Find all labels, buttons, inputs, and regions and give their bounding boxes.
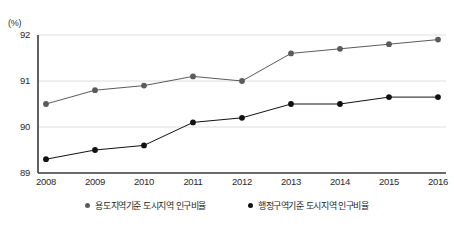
chart-figure: (%) 89909192 200820092010201120122013201… xyxy=(0,0,454,228)
x-axis-tick-2014: 2014 xyxy=(323,176,357,187)
line-chart-plot xyxy=(0,0,454,228)
legend-item-label: 행정구역기준 도시지역 인구비율 xyxy=(258,199,369,212)
legend-dot-icon xyxy=(248,203,253,208)
y-axis-tick-92: 92 xyxy=(8,29,30,40)
x-axis-tick-2009: 2009 xyxy=(78,176,112,187)
x-axis-tick-2010: 2010 xyxy=(127,176,161,187)
legend-dot-icon xyxy=(85,203,90,208)
y-axis-tick-91: 91 xyxy=(8,75,30,86)
legend-item-label: 용도지역기준 도시지역 인구비율 xyxy=(95,199,206,212)
y-axis-tick-89: 89 xyxy=(8,167,30,178)
x-axis-tick-2016: 2016 xyxy=(421,176,454,187)
x-axis-tick-2008: 2008 xyxy=(29,176,63,187)
legend-item-0[interactable]: 용도지역기준 도시지역 인구비율 xyxy=(85,199,206,212)
y-axis-tick-90: 90 xyxy=(8,121,30,132)
x-axis-tick-2012: 2012 xyxy=(225,176,259,187)
chart-legend: 용도지역기준 도시지역 인구비율 행정구역기준 도시지역 인구비율 xyxy=(0,199,454,212)
legend-item-1[interactable]: 행정구역기준 도시지역 인구비율 xyxy=(248,199,369,212)
x-axis-tick-2013: 2013 xyxy=(274,176,308,187)
x-axis-tick-2015: 2015 xyxy=(372,176,406,187)
x-axis-tick-2011: 2011 xyxy=(176,176,210,187)
